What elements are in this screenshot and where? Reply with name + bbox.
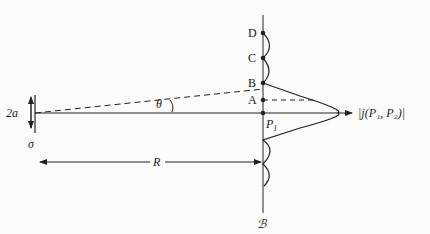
label-p1: P1 bbox=[265, 117, 277, 133]
source-aperture bbox=[31, 95, 35, 133]
distance-label: R bbox=[152, 155, 161, 169]
source-label: σ bbox=[28, 137, 35, 151]
screen-label: ℬ bbox=[257, 217, 268, 231]
coherence-curve bbox=[263, 33, 339, 186]
point-p1 bbox=[261, 111, 266, 116]
label-d: D bbox=[248, 26, 257, 40]
coherence-diagram: 2a σ |j(P₁, P₂)| θ ℬ D C B A P1 R bbox=[0, 0, 430, 234]
dashed-ray bbox=[35, 89, 263, 113]
label-a: A bbox=[248, 93, 257, 107]
point-c bbox=[261, 56, 266, 61]
axis-label: |j(P₁, P₂)| bbox=[358, 106, 405, 120]
aperture-label: 2a bbox=[6, 106, 18, 120]
label-b: B bbox=[248, 76, 256, 90]
point-d bbox=[261, 31, 266, 36]
angle-arc bbox=[170, 100, 173, 112]
label-c: C bbox=[248, 51, 256, 65]
point-a bbox=[261, 98, 266, 103]
angle-label: θ bbox=[156, 97, 162, 111]
point-b bbox=[261, 81, 266, 86]
